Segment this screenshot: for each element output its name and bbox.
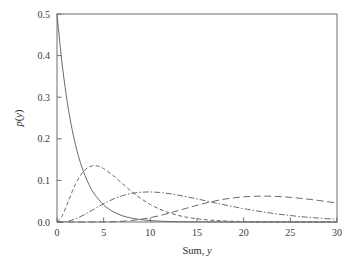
x-tick-label: 5 bbox=[101, 227, 106, 238]
probability-density-plot: 0510152025300.00.10.20.30.40.5Sum, yp(y) bbox=[0, 0, 356, 266]
x-tick-label: 20 bbox=[239, 227, 249, 238]
x-tick-label: 15 bbox=[192, 227, 202, 238]
y-tick-label: 0.4 bbox=[38, 50, 51, 61]
chart-figure: 0510152025300.00.10.20.30.40.5Sum, yp(y) bbox=[0, 0, 356, 266]
plot-frame bbox=[57, 14, 337, 222]
x-axis-label: Sum, y bbox=[182, 245, 212, 256]
y-tick-label: 0.1 bbox=[38, 175, 51, 186]
y-tick-label: 0.3 bbox=[38, 92, 51, 103]
y-axis-label: p(y) bbox=[13, 109, 25, 127]
svg-text:p(y): p(y) bbox=[13, 109, 25, 127]
x-tick-label: 25 bbox=[285, 227, 295, 238]
curve-n-5 bbox=[57, 192, 337, 222]
x-tick-label: 10 bbox=[145, 227, 155, 238]
curve-n-3 bbox=[57, 166, 337, 222]
curve-n-1 bbox=[57, 14, 337, 222]
y-tick-label: 0.2 bbox=[38, 133, 51, 144]
x-tick-label: 30 bbox=[332, 227, 342, 238]
y-tick-label: 0.0 bbox=[38, 217, 51, 228]
y-tick-label: 0.5 bbox=[38, 9, 51, 20]
x-tick-label: 0 bbox=[55, 227, 60, 238]
